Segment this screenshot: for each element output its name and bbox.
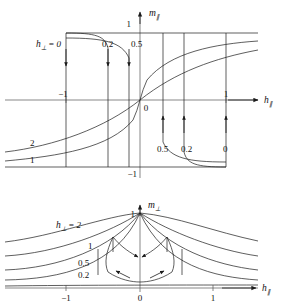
bottom-ytick-label-1: 1	[131, 209, 136, 219]
top-xtick-label-0: 0	[144, 103, 149, 113]
top-label-lower-0: 0	[223, 144, 228, 154]
top-x-axis-label-sub: ∥	[269, 100, 273, 108]
loop-hperp-05-upper	[66, 38, 129, 167]
top-label-tail-1: 1	[30, 155, 35, 165]
bottom-y-axis-label: m⊥	[148, 200, 161, 212]
binner-branch-left-lower	[108, 272, 140, 282]
top-y-axis-label: m∥	[149, 8, 160, 21]
top-label-upper-05: 0.5	[131, 39, 143, 49]
bcurve-hperp-1	[5, 213, 258, 256]
bottom-label-1: 1	[88, 241, 93, 251]
top-xtick-label-pos1: 1	[224, 89, 229, 99]
bottom-label-05: 0.5	[78, 258, 90, 268]
hysteresis-figure: 1 −1 −1 0 1 m∥ h∥ h⊥= 0 0.2 0.5 0.5 0.2 …	[0, 0, 295, 306]
bottom-xtick-label-pos1: 1	[211, 293, 216, 303]
bottom-y-axis-label-sub: ⊥	[155, 205, 161, 212]
bcurve-hperp-05	[5, 213, 258, 270]
top-family-label-sub: ⊥	[41, 44, 47, 51]
top-x-axis-label: h∥	[264, 95, 273, 108]
loop-hperp-05-lower	[163, 33, 226, 162]
bottom-family-label-sub: ⊥	[61, 225, 67, 232]
binner-branch-right-lower	[140, 272, 172, 282]
top-family-label: h⊥= 0	[36, 39, 62, 51]
top-label-lower-05: 0.5	[157, 144, 169, 154]
bottom-family-label: h⊥= 2	[56, 220, 82, 232]
binner-arrow-left	[116, 271, 130, 278]
bottom-xtick-label-0: 0	[138, 293, 143, 303]
top-panel: 1 −1 −1 0 1 m∥ h∥ h⊥= 0 0.2 0.5 0.5 0.2 …	[5, 8, 273, 179]
binner-branch-left-upper	[113, 237, 138, 257]
binner-branch-right-upper	[142, 237, 167, 257]
top-y-axis-label-sub: ∥	[156, 13, 160, 21]
bottom-xtick-label-neg1: −1	[61, 293, 71, 303]
top-label-upper-02: 0.2	[102, 39, 113, 49]
figure-svg: 1 −1 −1 0 1 m∥ h∥ h⊥= 0 0.2 0.5 0.5 0.2 …	[0, 0, 295, 306]
top-label-tail-2: 2	[30, 138, 35, 148]
top-xtick-label-neg1: −1	[58, 89, 68, 99]
top-label-lower-02: 0.2	[181, 144, 192, 154]
binner-arc-left	[106, 237, 113, 272]
bottom-label-02: 0.2	[78, 270, 89, 280]
curve-hperp-2	[5, 50, 258, 152]
bottom-panel: −1 0 1 1 m⊥ h∥ h⊥= 2 1 0.5 0.2	[5, 200, 271, 303]
top-ytick-label-1: 1	[127, 19, 132, 29]
bottom-x-axis-label-sub: ∥	[267, 288, 271, 296]
top-family-label-eq: = 0	[48, 39, 61, 49]
binner-arrow-right	[150, 271, 164, 278]
bottom-family-label-eq: = 2	[68, 220, 81, 230]
bcurve-hperp-0	[5, 285, 258, 286]
top-ytick-label-neg1: −1	[127, 169, 137, 179]
bottom-x-axis-label: h∥	[262, 283, 271, 296]
bcurve-hperp-02	[5, 213, 258, 280]
